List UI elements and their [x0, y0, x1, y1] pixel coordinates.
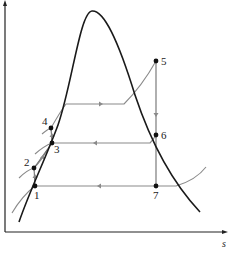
arrow-down-icon [154, 113, 159, 117]
y-axis-arrow-icon [3, 0, 7, 6]
point-label-6: 6 [161, 130, 167, 141]
point-6 [154, 133, 159, 138]
process-lines [34, 61, 156, 186]
isobars [12, 61, 206, 213]
point-4 [49, 126, 54, 131]
arrow-left-icon [97, 184, 101, 189]
state-points [32, 59, 159, 189]
point-5 [154, 59, 159, 64]
point-label-1: 1 [34, 190, 40, 201]
point-label-3: 3 [54, 144, 60, 155]
point-2 [32, 166, 37, 171]
point-label-5: 5 [161, 56, 167, 67]
point-label-7: 7 [153, 190, 159, 201]
ts-diagram [0, 0, 229, 256]
x-axis-label: s [222, 238, 226, 249]
point-7 [154, 184, 159, 189]
point-label-2: 2 [24, 157, 30, 168]
point-label-4: 4 [42, 116, 48, 127]
arrow-right-icon [99, 102, 103, 107]
point-1 [33, 184, 38, 189]
x-axis-arrow-icon [222, 230, 228, 234]
isobar-low [12, 167, 206, 213]
arrow-left-icon [93, 141, 97, 146]
